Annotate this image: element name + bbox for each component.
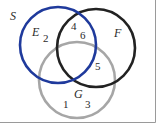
set-f-label: F (113, 26, 122, 40)
element-1: 1 (63, 98, 69, 110)
universe-label: S (10, 9, 16, 23)
element-4: 4 (71, 20, 77, 32)
set-g-circle (39, 42, 115, 118)
venn-diagram: S E F G 2 4 6 5 1 3 (0, 0, 162, 130)
element-3: 3 (85, 98, 91, 110)
set-e-label: E (31, 25, 40, 39)
element-6: 6 (80, 29, 86, 41)
set-g-label: G (74, 87, 83, 101)
element-2: 2 (43, 32, 49, 44)
element-5: 5 (95, 60, 101, 72)
